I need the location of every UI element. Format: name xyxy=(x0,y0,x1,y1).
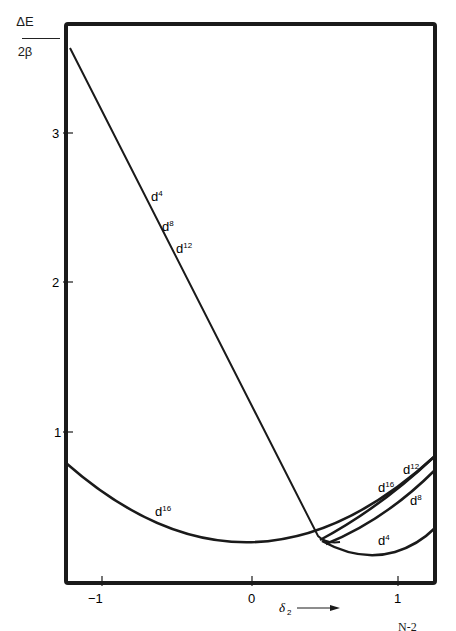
x-axis-label-subscript: 2 xyxy=(287,608,292,617)
label-d4-right: d4 xyxy=(378,533,390,548)
chart-plot: 3 2 1 −1 0 1 δ 2 d4 d8 d12 d16 d12 d16 d… xyxy=(0,0,456,631)
series-labels: d4 d8 d12 d16 d12 d16 d8 d4 xyxy=(151,189,422,548)
figure-note: N-2 xyxy=(398,620,417,631)
arrow-head-icon xyxy=(330,605,340,611)
series-d16 xyxy=(66,456,435,542)
x-tick-minus1: −1 xyxy=(88,591,103,606)
label-d12-upper: d12 xyxy=(176,241,193,256)
x-tick-0: 0 xyxy=(248,591,255,606)
label-d16-lower: d16 xyxy=(155,504,172,519)
label-d8-right: d8 xyxy=(410,493,422,508)
label-d8-upper: d8 xyxy=(162,219,174,234)
y-tick-2: 2 xyxy=(52,275,59,290)
x-axis-label: δ xyxy=(279,600,286,615)
label-d4-upper: d4 xyxy=(151,189,163,204)
x-tick-1: 1 xyxy=(394,591,401,606)
series-d4-d8-d12-left xyxy=(70,48,340,542)
y-tick-3: 3 xyxy=(52,126,59,141)
y-tick-1: 1 xyxy=(54,425,61,440)
